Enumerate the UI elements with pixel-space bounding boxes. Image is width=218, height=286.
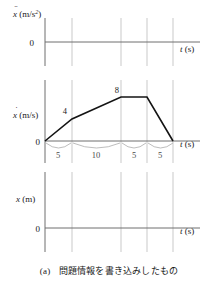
velocity-curve (45, 97, 173, 141)
figure-caption: (a) 問題情報を書き込みしたもの (0, 264, 218, 277)
interval-label-1: 5 (56, 150, 60, 160)
accel-y-axis-double-dot-icon: ¨ (15, 3, 18, 13)
figure-caption-tag: (a) (40, 266, 51, 276)
panel-position: x (m) 0 t (s) (15, 172, 200, 252)
brace-interval-4 (148, 143, 173, 148)
pos-origin-label: 0 (36, 224, 41, 234)
three-panel-kinematics-plot: x (m/s2) ¨ 0 t (s) x (m/s) ˙ 0 t (s) 4 8 (0, 0, 218, 264)
figure-container: x (m/s2) ¨ 0 t (s) x (m/s) ˙ 0 t (s) 4 8 (0, 0, 218, 286)
interval-label-2: 10 (92, 150, 101, 160)
accel-origin-label: 0 (30, 38, 35, 48)
interval-label-3: 5 (132, 150, 136, 160)
pos-x-axis-label: t (s) (180, 226, 194, 236)
brace-interval-1 (46, 143, 71, 148)
vel-x-axis-label: t (s) (180, 139, 194, 149)
panel-acceleration: x (m/s2) ¨ 0 t (s) (12, 3, 200, 66)
vel-y-axis-single-dot-icon: ˙ (15, 105, 18, 115)
velocity-point-label-8: 8 (115, 85, 119, 95)
interval-braces-group: 5 10 5 5 (46, 143, 173, 160)
brace-interval-2 (73, 143, 120, 148)
interval-label-4: 5 (158, 150, 162, 160)
pos-y-axis-label: x (m) (15, 194, 35, 204)
figure-caption-text: 問題情報を書き込みしたもの (59, 266, 179, 276)
gridlines-group (72, 18, 173, 252)
brace-interval-3 (122, 143, 146, 148)
vel-origin-label: 0 (36, 137, 41, 147)
accel-x-axis-label: t (s) (180, 44, 194, 54)
velocity-point-label-4: 4 (63, 106, 68, 116)
panel-velocity: x (m/s) ˙ 0 t (s) 4 8 5 10 5 5 (12, 80, 200, 163)
